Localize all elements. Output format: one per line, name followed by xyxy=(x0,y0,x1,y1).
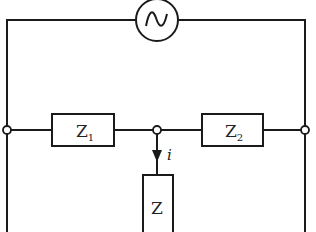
impedance-z: Z xyxy=(143,175,173,232)
current-label: i xyxy=(167,146,172,164)
ac-source xyxy=(136,0,178,41)
impedance-z1: Z1 xyxy=(52,114,114,146)
node-center xyxy=(153,126,161,134)
current-arrow-icon xyxy=(152,150,162,162)
node-right xyxy=(301,126,309,134)
node-left xyxy=(3,126,11,134)
circuit-diagram: Z1 Z2 i Z xyxy=(0,0,316,232)
z-label: Z xyxy=(151,198,163,218)
impedance-z2: Z2 xyxy=(202,114,263,146)
